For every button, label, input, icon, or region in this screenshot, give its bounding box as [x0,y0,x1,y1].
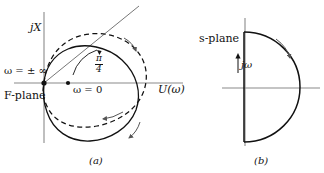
panel-a-imaginary-axis-label: jX [30,22,41,33]
panel-a-real-axis-label: U(ω) [158,84,185,95]
omega-zero-label: ω = 0 [73,85,102,95]
d-contour-semicircle [244,32,300,142]
direction-arrow-dashed-upper [124,38,136,51]
j-omega-arrowhead [235,53,240,58]
panel-b-imaginary-axis-label: jω [241,60,252,70]
nyquist-locus-dashed [43,34,146,128]
pi-over-4-denominator: 4 [95,65,103,74]
panel-b-plane-label: s-plane [199,33,239,44]
panel-b-caption: (b) [254,155,268,166]
omega-zero-point [66,81,70,85]
omega-infinity-label: ω = ± ∞ [4,66,47,76]
pi-over-4-numerator: π [95,54,103,63]
pi-over-4-ray [44,6,139,83]
omega-infinity-point [41,80,46,85]
pi-over-4-angle-label: π 4 [95,54,103,75]
panel-a-plane-label: F-plane [4,90,46,101]
figure-root: jX ω = ± ∞ F-plane ω = 0 U(ω) π 4 (a) s-… [0,0,324,173]
panel-a-caption: (a) [89,155,103,166]
direction-arrow-solid-lower [129,122,140,138]
pi-over-4-angle-arc [73,50,97,75]
